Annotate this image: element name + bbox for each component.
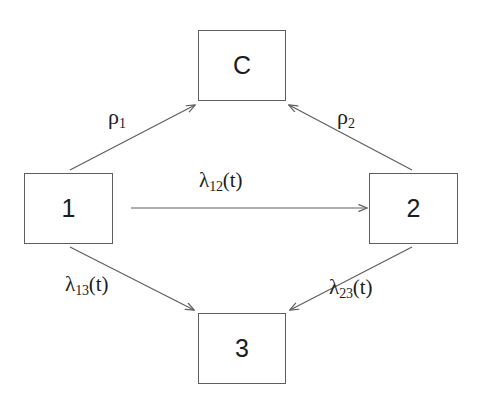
edge-label-lambda-12-subscript: 12: [209, 179, 223, 194]
edge-label-rho-1: ρ1: [108, 106, 126, 131]
edge-label-lambda-12: λ12(t): [199, 170, 243, 194]
edge-label-rho-2: ρ2: [337, 106, 355, 131]
node-label-1: 1: [62, 196, 76, 221]
edge-1-to-C: [70, 105, 195, 170]
diagram-canvas: C 1 2 3 ρ1 ρ2 λ12(t) λ13(t) λ23(t): [0, 0, 478, 407]
node-box-1[interactable]: 1: [24, 173, 113, 244]
edge-label-lambda-23-tail: (t): [353, 275, 373, 299]
node-label-C: C: [233, 53, 251, 78]
edge-label-lambda-13: λ13(t): [65, 274, 109, 298]
node-label-2: 2: [407, 196, 421, 221]
edge-label-lambda-23-symbol: λ: [329, 275, 339, 299]
edge-label-rho-2-subscript: 2: [348, 116, 355, 131]
edge-label-rho-1-subscript: 1: [119, 116, 126, 131]
edge-label-lambda-23-subscript: 23: [339, 286, 353, 301]
edge-label-lambda-12-tail: (t): [223, 168, 243, 192]
edge-label-rho-2-symbol: ρ: [337, 104, 348, 129]
edge-label-lambda-13-subscript: 13: [75, 283, 89, 298]
node-label-3: 3: [235, 336, 249, 361]
edge-label-rho-1-symbol: ρ: [108, 104, 119, 129]
edge-label-lambda-12-symbol: λ: [199, 168, 209, 192]
edge-label-lambda-23: λ23(t): [329, 277, 373, 301]
node-box-2[interactable]: 2: [369, 173, 458, 244]
edge-label-lambda-13-symbol: λ: [65, 272, 75, 296]
node-box-C[interactable]: C: [198, 30, 286, 101]
node-box-3[interactable]: 3: [198, 313, 286, 384]
edge-label-lambda-13-tail: (t): [89, 272, 109, 296]
